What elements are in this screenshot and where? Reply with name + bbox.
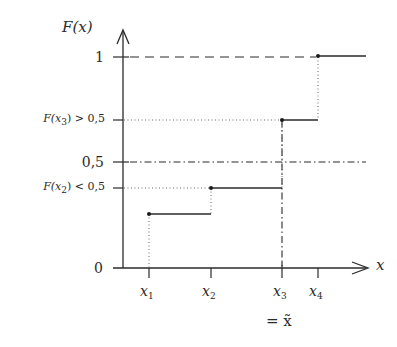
fx2-main: F(x [43, 180, 61, 193]
x-axis [113, 262, 368, 274]
y-tick-label-fx3: F(x3) > 0,5 [43, 113, 105, 127]
cdf-steps [149, 56, 366, 214]
x-tick-label-x3: x3 [273, 284, 287, 301]
step-points [147, 54, 320, 216]
x-tick-label-x1: x1 [140, 284, 154, 301]
cdf-diagram [0, 0, 397, 347]
x-axis-label: x [376, 258, 384, 273]
y-tick-label-fx2: F(x2) < 0,5 [43, 181, 105, 195]
x-tick-label-x4: x4 [309, 284, 323, 301]
fx2-rest: ) < 0,5 [67, 180, 105, 193]
fx3-main: F(x [43, 112, 61, 125]
median-annotation: = x̃ [266, 314, 292, 329]
fx3-rest: ) > 0,5 [67, 112, 105, 125]
y-tick-label-half: 0,5 [82, 155, 104, 169]
y-tick-label-zero: 0 [94, 261, 103, 275]
y-ticks [113, 57, 129, 188]
x-ticks [149, 262, 318, 278]
y-axis-label: F(x) [62, 20, 93, 35]
x-tick-label-x2: x2 [202, 284, 216, 301]
y-tick-label-one: 1 [95, 50, 104, 64]
y-axis [117, 30, 129, 268]
